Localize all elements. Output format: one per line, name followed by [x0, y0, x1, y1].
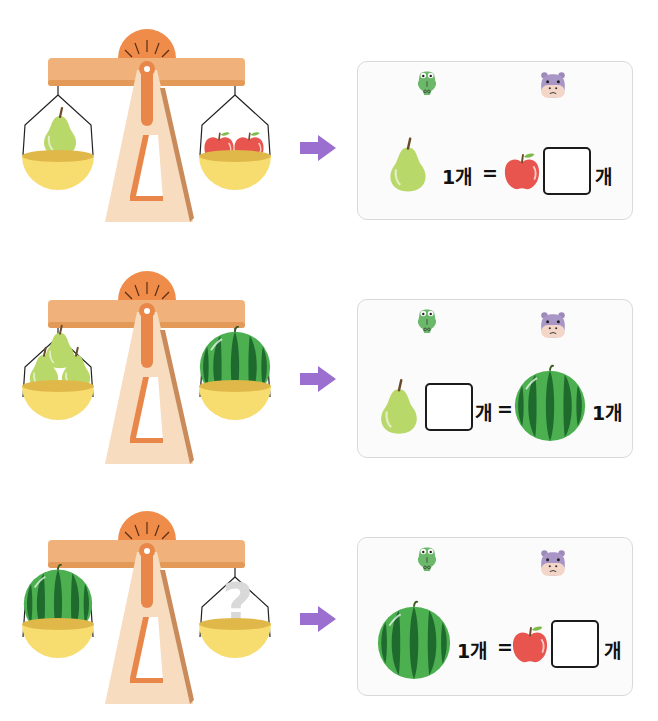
problem-row-1: 1개 = 개 — [0, 0, 658, 240]
left-count: 1개 — [457, 636, 487, 663]
pan-right-icon — [199, 150, 271, 190]
crocodile-icon — [414, 308, 440, 334]
watermelon-icon — [513, 364, 587, 444]
pan-left-icon — [22, 150, 94, 190]
crocodile-icon — [414, 70, 440, 96]
answer-box-3[interactable] — [551, 620, 599, 668]
pear-icon — [376, 378, 422, 436]
unit-label: 개 — [595, 162, 612, 189]
right-count: 1개 — [592, 398, 622, 425]
answer-box-1[interactable] — [543, 147, 591, 195]
equals-sign: = — [482, 162, 498, 184]
equation-panel-1: 1개 = 개 — [357, 61, 633, 220]
answer-box-2[interactable] — [425, 383, 473, 431]
arrow-right-icon — [298, 604, 338, 634]
equation-panel-3: 1개 = 개 — [357, 537, 633, 696]
problem-row-3: ? 1개 = 개 — [0, 488, 658, 721]
pan-left-icon — [22, 618, 94, 658]
left-count: 1개 — [442, 162, 472, 189]
apple-icon — [511, 622, 549, 666]
hippo-icon — [538, 70, 568, 100]
unit-label: 개 — [475, 398, 492, 425]
unit-label: 개 — [604, 636, 621, 663]
arrow-right-icon — [298, 133, 338, 163]
hippo-icon — [538, 310, 568, 340]
crocodile-icon — [414, 546, 440, 572]
equation-panel-2: 개 = 1개 — [357, 299, 633, 458]
arrow-right-icon — [298, 364, 338, 394]
pan-right-icon — [199, 380, 271, 420]
apple-icon — [503, 150, 541, 192]
pan-left-icon — [22, 380, 94, 420]
equals-sign: = — [497, 398, 513, 420]
pear-icon — [386, 136, 430, 194]
problem-row-2: 개 = 1개 — [0, 242, 658, 482]
pan-right-icon — [199, 618, 271, 658]
hippo-icon — [538, 548, 568, 578]
watermelon-icon — [376, 600, 452, 682]
